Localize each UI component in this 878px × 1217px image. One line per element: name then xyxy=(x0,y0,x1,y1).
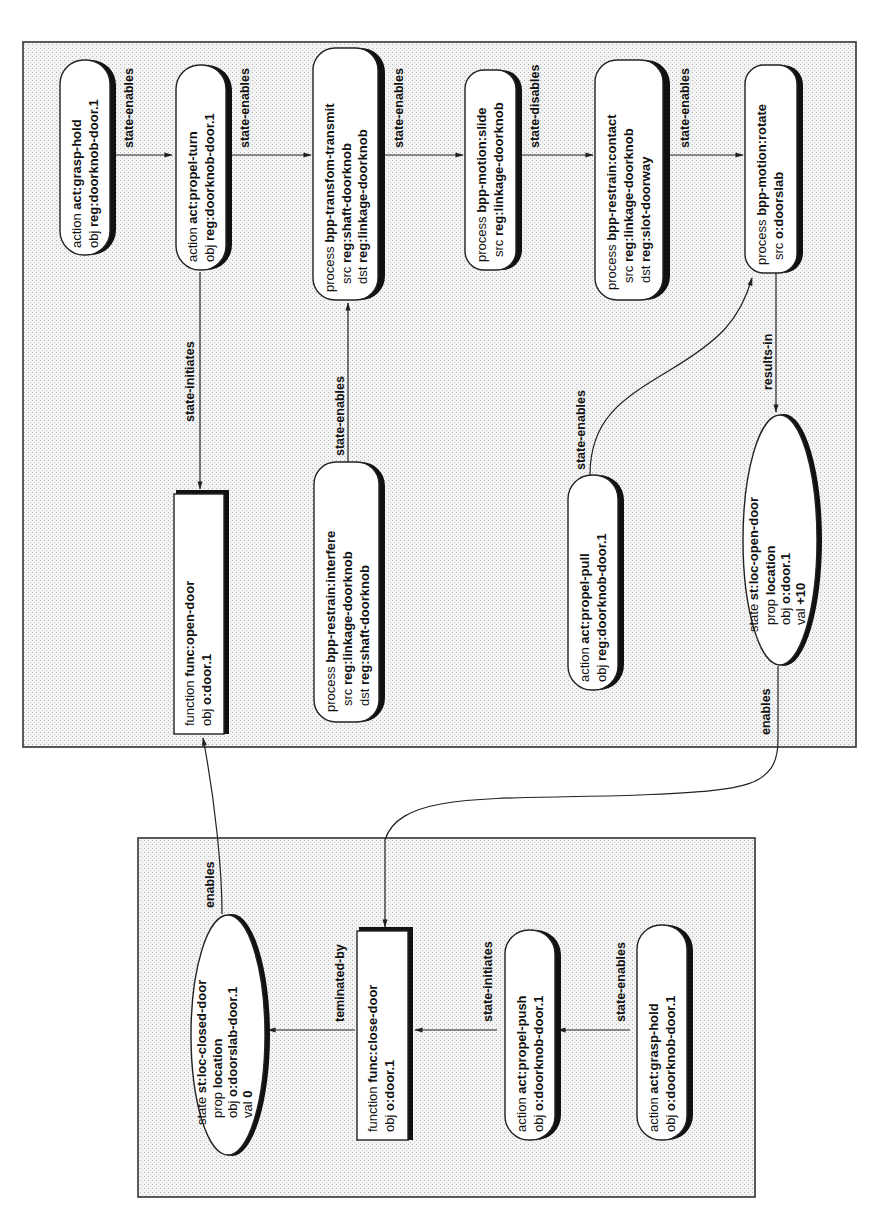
svg-text:obj reg:doorknob-door.1: obj reg:doorknob-door.1 xyxy=(86,99,101,248)
svg-text:process bpp-transfom-transmit: process bpp-transfom-transmit xyxy=(322,103,337,292)
edge-label: teminated-by xyxy=(333,944,347,1022)
svg-text:obj reg:doorknob-door.1: obj reg:doorknob-door.1 xyxy=(594,533,609,682)
svg-text:process bpp-restrain:interfere: process bpp-restrain:interfere xyxy=(323,531,338,712)
node-action-propel-push[interactable]: action act:propel-push obj o:doorknob-do… xyxy=(505,930,561,1140)
svg-text:dst reg:linkage-doorknob: dst reg:linkage-doorknob xyxy=(355,129,370,284)
svg-text:prop location: prop location xyxy=(763,545,778,625)
svg-text:action act:grasp-hold: action act:grasp-hold xyxy=(646,1003,661,1132)
svg-text:src reg:linkage-doorknob: src reg:linkage-doorknob xyxy=(621,128,636,283)
node-action-grasp-hold[interactable]: action act:grasp-hold obj reg:doorknob-d… xyxy=(60,60,116,255)
svg-text:process bpp-restrain:contact: process bpp-restrain:contact xyxy=(604,114,619,290)
svg-text:obj o:door.1: obj o:door.1 xyxy=(778,553,793,625)
svg-text:src o:doorslab: src o:doorslab xyxy=(771,172,786,260)
svg-text:obj reg:doorknob-door.1: obj reg:doorknob-door.1 xyxy=(202,113,217,262)
svg-text:src reg:linkage-doorknob: src reg:linkage-doorknob xyxy=(340,551,355,706)
svg-text:dst reg:slot-doorway: dst reg:slot-doorway xyxy=(638,156,653,283)
svg-text:prop location: prop location xyxy=(210,1038,225,1118)
edge-label: state-enables xyxy=(122,68,136,148)
svg-text:action act:grasp-hold: action act:grasp-hold xyxy=(69,119,84,248)
node-process-restrain-interfere[interactable]: process bpp-restrain:interfere src reg:l… xyxy=(314,462,385,722)
svg-text:val +10: val +10 xyxy=(793,583,808,625)
node-process-motion-slide[interactable]: process bpp-motion:slide src reg:linkage… xyxy=(465,70,522,270)
node-function-close-door[interactable]: function func:close-door obj o:door.1 xyxy=(357,927,413,1140)
edge-label: state-enables xyxy=(392,68,406,148)
node-action-grasp-hold-close[interactable]: action act:grasp-hold obj o:doorknob-doo… xyxy=(637,925,693,1140)
edge-label: state-enables xyxy=(678,68,692,148)
svg-text:process bpp-motion:slide: process bpp-motion:slide xyxy=(474,107,489,262)
node-action-propel-turn[interactable]: action act:propel-turn obj reg:doorknob-… xyxy=(176,65,232,270)
node-process-transfom-transmit[interactable]: process bpp-transfom-transmit src reg:sh… xyxy=(313,48,385,300)
edge-label: state-initiates xyxy=(183,341,197,422)
svg-text:src reg:shaft-doorknob: src reg:shaft-doorknob xyxy=(339,143,354,284)
svg-text:obj o:doorslab-door.1: obj o:doorslab-door.1 xyxy=(225,987,240,1118)
node-state-loc-closed-door[interactable]: state st:loc-closed-door prop location o… xyxy=(191,914,270,1156)
svg-text:obj o:doorknob-door.1: obj o:doorknob-door.1 xyxy=(531,995,546,1132)
node-function-open-door[interactable]: function func:open-door obj o:door.1 xyxy=(174,490,229,734)
svg-text:obj o:door.1: obj o:door.1 xyxy=(199,654,214,726)
edge-label: state-disables xyxy=(528,65,542,148)
edge-label: state-enables xyxy=(574,390,588,470)
edge-label: state-enables xyxy=(333,376,347,456)
svg-text:process bpp-motion:rotate: process bpp-motion:rotate xyxy=(754,104,769,265)
svg-text:action act:propel-turn: action act:propel-turn xyxy=(185,131,200,262)
svg-text:dst reg:shaft-doorknob: dst reg:shaft-doorknob xyxy=(357,565,372,706)
functional-model-diagram: state-enables state-enables state-enable… xyxy=(0,0,878,1217)
svg-text:obj o:door.1: obj o:door.1 xyxy=(382,1060,397,1132)
svg-text:state st:loc-closed-door: state st:loc-closed-door xyxy=(194,980,209,1125)
edge-label: results-in xyxy=(761,334,775,390)
edge-label: state-enables xyxy=(238,68,252,148)
svg-text:function func:close-door: function func:close-door xyxy=(365,985,380,1132)
svg-text:action act:propel-pull: action act:propel-pull xyxy=(577,553,592,682)
svg-text:action act:propel-push: action act:propel-push xyxy=(514,995,529,1132)
edge-label: state-initiates xyxy=(481,941,495,1022)
svg-text:src reg:linkage-doorknob: src reg:linkage-doorknob xyxy=(491,102,506,257)
open-door-frame xyxy=(23,42,856,747)
edge-label: enables xyxy=(759,688,773,735)
node-action-propel-pull[interactable]: action act:propel-pull obj reg:doorknob-… xyxy=(568,475,624,690)
edge-label: enables xyxy=(203,861,217,908)
svg-text:state st:loc-open-door: state st:loc-open-door xyxy=(746,497,761,632)
node-state-loc-open-door[interactable]: state st:loc-open-door prop location obj… xyxy=(743,414,822,666)
svg-text:obj o:doorknob-door.1: obj o:doorknob-door.1 xyxy=(663,995,678,1132)
node-process-motion-rotate[interactable]: process bpp-motion:rotate src o:doorslab xyxy=(745,65,803,273)
node-process-restrain-contact[interactable]: process bpp-restrain:contact src reg:lin… xyxy=(595,60,670,300)
svg-text:function func:open-door: function func:open-door xyxy=(182,581,197,726)
edge-label: state-enables xyxy=(614,942,628,1022)
svg-text:val 0: val 0 xyxy=(240,1091,255,1118)
